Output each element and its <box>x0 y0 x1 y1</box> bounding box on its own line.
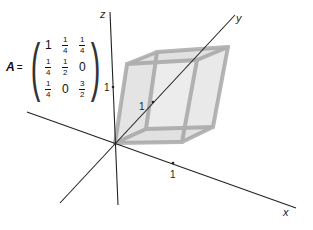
matrix-entry: 14 <box>45 80 51 99</box>
matrix-entry: 14 <box>45 58 51 77</box>
x-tick-label: 1 <box>170 169 176 180</box>
matrix-entry: 32 <box>79 80 85 99</box>
matrix-entry: 14 <box>62 36 68 55</box>
fraction: 14 <box>45 80 51 99</box>
x-axis-label: x <box>282 206 289 218</box>
matrix-entry: 1 <box>45 38 52 52</box>
denominator: 4 <box>46 69 50 77</box>
numerator: 1 <box>63 36 67 44</box>
y-axis-label: y <box>235 12 243 24</box>
fraction: 14 <box>45 58 51 77</box>
denominator: 2 <box>63 69 67 77</box>
matrix-entry: 0 <box>79 60 86 74</box>
fraction: 14 <box>79 36 85 55</box>
equals-sign: = <box>17 62 23 73</box>
numerator: 1 <box>46 80 50 88</box>
denominator: 4 <box>63 47 67 55</box>
fraction: 14 <box>62 36 68 55</box>
matrix-entry: 12 <box>62 58 68 77</box>
matrix-entries: 114141412014032 <box>40 34 91 100</box>
denominator: 4 <box>46 91 50 99</box>
numerator: 1 <box>63 58 67 66</box>
matrix-A: A = ( 114141412014032 ) <box>6 34 106 100</box>
matrix-name: A <box>6 60 15 74</box>
z-axis-label: z <box>99 8 106 20</box>
y-tick-label: 1 <box>139 101 145 112</box>
numerator: 1 <box>46 58 50 66</box>
left-paren: ( <box>30 35 40 99</box>
numerator: 3 <box>80 80 84 88</box>
fraction: 12 <box>62 58 68 77</box>
denominator: 4 <box>80 47 84 55</box>
denominator: 2 <box>80 91 84 99</box>
fraction: 32 <box>79 80 85 99</box>
numerator: 1 <box>80 36 84 44</box>
right-paren: ) <box>91 35 101 99</box>
z-axis <box>110 12 118 205</box>
matrix-entry: 14 <box>79 36 85 55</box>
matrix-entry: 0 <box>62 82 69 96</box>
